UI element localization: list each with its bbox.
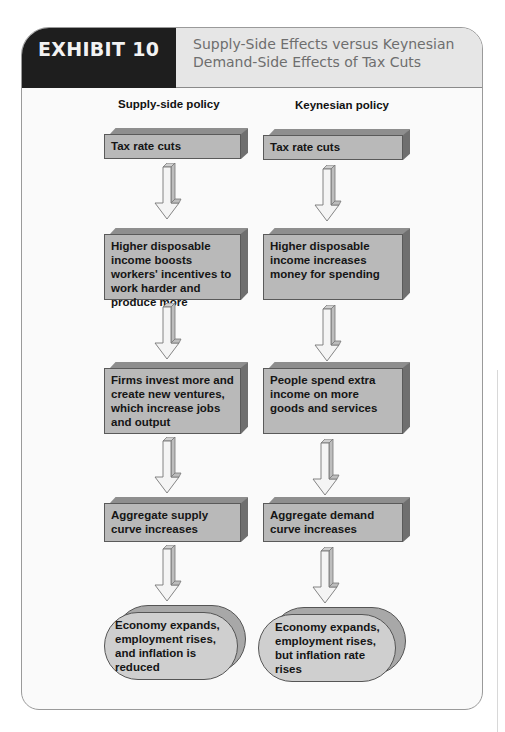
exhibit-title: Supply-Side Effects versus Keynesian Dem… [193, 35, 483, 71]
supply-step-3: Firms invest more and create new venture… [104, 368, 241, 434]
down-arrow-icon [308, 547, 348, 607]
down-arrow-icon [150, 163, 190, 223]
exhibit-label-block: EXHIBIT 10 [22, 28, 176, 88]
supply-outcome-oval: Economy expands, employment rises, and i… [104, 605, 246, 681]
keynesian-step-2: Higher disposable income increases money… [263, 234, 403, 300]
keynesian-step-4-box: Aggregate demand curve increases [263, 497, 410, 542]
supply-step-2: Higher disposable income boosts workers'… [104, 234, 241, 300]
keynesian-step-4: Aggregate demand curve increases [263, 503, 403, 542]
supply-step-1: Tax rate cuts [104, 134, 241, 159]
down-arrow-icon [310, 305, 350, 365]
supply-step-1-box: Tax rate cuts [104, 128, 248, 159]
keynesian-step-2-box: Higher disposable income increases money… [263, 228, 410, 300]
supply-outcome: Economy expands, employment rises, and i… [104, 612, 238, 680]
exhibit-label: EXHIBIT 10 [38, 38, 159, 60]
supply-step-4: Aggregate supply curve increases [104, 503, 241, 542]
supply-step-2-box: Higher disposable income boosts workers'… [104, 228, 248, 300]
column-label-supply-side: Supply-side policy [118, 98, 220, 110]
keynesian-step-3: People spend extra income on more goods … [263, 368, 403, 434]
down-arrow-icon [150, 545, 190, 605]
supply-step-3-box: Firms invest more and create new venture… [104, 362, 248, 434]
down-arrow-icon [150, 303, 190, 363]
keynesian-step-1-box: Tax rate cuts [263, 129, 410, 160]
keynesian-step-1: Tax rate cuts [263, 135, 403, 160]
down-arrow-icon [150, 437, 190, 497]
down-arrow-icon [310, 165, 350, 225]
supply-step-4-box: Aggregate supply curve increases [104, 497, 248, 542]
keynesian-outcome-oval: Economy expands, employment rises, but i… [258, 607, 406, 683]
column-label-keynesian: Keynesian policy [295, 99, 389, 111]
keynesian-outcome: Economy expands, employment rises, but i… [258, 614, 396, 682]
exhibit-card: EXHIBIT 10 Supply-Side Effects versus Ke… [21, 27, 483, 710]
down-arrow-icon [308, 439, 348, 499]
page-edge-line [497, 370, 498, 732]
keynesian-step-3-box: People spend extra income on more goods … [263, 362, 410, 434]
exhibit-title-block: Supply-Side Effects versus Keynesian Dem… [176, 28, 482, 88]
